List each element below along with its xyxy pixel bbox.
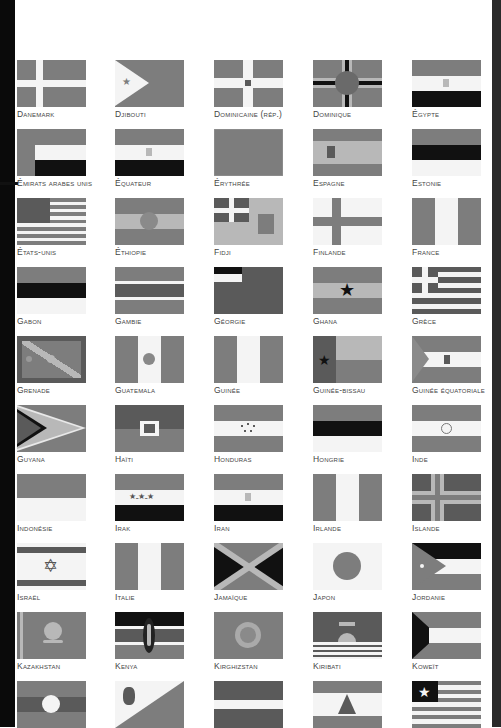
flag-image xyxy=(313,543,382,590)
flag-country-label: France xyxy=(412,248,501,257)
flag-image xyxy=(115,405,184,452)
flag-card: Grèce xyxy=(412,267,501,326)
flag-card: Finlande xyxy=(313,198,403,257)
flag-country-label: Grèce xyxy=(412,317,501,326)
flag-country-label: Érythrée xyxy=(214,179,304,188)
flag-shape xyxy=(214,474,283,490)
flag-shape xyxy=(260,336,283,383)
flag-card: dominicaine (Rép.) xyxy=(214,60,304,119)
flag-shape xyxy=(17,712,86,728)
flag-shape xyxy=(138,543,161,590)
flag-image: ★ xyxy=(313,336,382,383)
flag-shape xyxy=(115,160,184,176)
flag-card: Grenade xyxy=(17,336,107,395)
flag-image xyxy=(412,198,481,245)
flag-image: ★ xyxy=(313,267,382,314)
flag-shape xyxy=(313,436,382,452)
flag-shape xyxy=(412,198,435,245)
flag-country-label: Islande xyxy=(412,524,501,533)
flag-country-label: Japon xyxy=(313,593,403,602)
flag-shape xyxy=(17,80,86,87)
flag-image xyxy=(115,543,184,590)
flag-image xyxy=(17,612,86,659)
flag-card: Honduras xyxy=(214,405,304,464)
flag-shape xyxy=(412,495,481,500)
flag-shape xyxy=(412,91,481,107)
flag-image xyxy=(17,267,86,314)
flag-country-label: Jamaïque xyxy=(214,593,304,602)
flag-image: ★ xyxy=(412,681,481,728)
flag-country-label: Éthiopie xyxy=(115,248,205,257)
flag-image xyxy=(214,543,283,590)
flag-image xyxy=(313,474,382,521)
flag-country-label: Guinée équatoriale xyxy=(412,386,501,395)
flag-image xyxy=(412,267,481,314)
flag-image xyxy=(412,60,481,107)
flag-image xyxy=(17,405,86,452)
flag-shape xyxy=(214,336,237,383)
flag-image xyxy=(17,198,86,245)
flag-country-label: Estonie xyxy=(412,179,501,188)
flag-country-label: Israël xyxy=(17,593,107,602)
flag-country-label: Danemark xyxy=(17,110,107,119)
flag-shape xyxy=(412,724,481,728)
flag-shape xyxy=(17,498,86,521)
flag-shape xyxy=(147,624,151,646)
flag-card: Jordanie xyxy=(412,543,501,602)
flag-shape xyxy=(17,547,86,553)
flag-shape xyxy=(161,336,184,383)
flag-card: Japon xyxy=(313,543,403,602)
flag-card xyxy=(17,681,107,728)
flag-shape xyxy=(250,430,252,432)
flag-country-label: Finlande xyxy=(313,248,403,257)
flag-country-label: Indonésie xyxy=(17,524,107,533)
flag-shape xyxy=(43,640,63,643)
flag-shape xyxy=(47,355,55,363)
flag-shape xyxy=(313,405,382,421)
flag-shape: ✡ xyxy=(43,556,58,576)
flag-country-label: Géorgie xyxy=(214,317,304,326)
flag-shape xyxy=(313,655,382,657)
flag-image xyxy=(214,129,283,176)
flag-shape xyxy=(336,336,382,360)
flag-card: Géorgie xyxy=(214,267,304,326)
flag-country-label: Jordanie xyxy=(412,593,501,602)
flag-card xyxy=(313,681,403,728)
flag-image xyxy=(214,336,283,383)
flag-image xyxy=(214,681,283,728)
flag-country-label: Kenya xyxy=(115,662,205,671)
flag-country-label: Kiribati xyxy=(313,662,403,671)
flag-shape xyxy=(17,267,86,283)
flag-country-label: Haïti xyxy=(115,455,205,464)
flag-shape xyxy=(336,474,359,521)
flag-image: ✡ xyxy=(17,543,86,590)
flag-shape xyxy=(17,241,86,245)
flag-image xyxy=(115,198,184,245)
flag-image xyxy=(214,474,283,521)
flag-shape xyxy=(313,421,382,436)
flag-shape: ★ xyxy=(339,281,355,299)
flag-country-label: Gambie xyxy=(115,317,205,326)
flag-country-label: Guatemala xyxy=(115,386,205,395)
flag-image xyxy=(313,681,382,728)
flag-shape xyxy=(214,208,249,213)
flag-shape xyxy=(44,622,62,640)
flag-country-label: Djibouti xyxy=(115,110,205,119)
flag-card: Italie xyxy=(115,543,205,602)
flag-shape xyxy=(115,60,149,106)
flag-shape xyxy=(123,687,135,705)
flag-image xyxy=(115,267,184,314)
flag-country-label: Irlande xyxy=(313,524,403,533)
flag-image xyxy=(412,612,481,659)
flag-shape xyxy=(115,336,138,383)
flag-country-label: Irak xyxy=(115,524,205,533)
flag-shape: ★ـ★ـ★ xyxy=(129,492,154,501)
flag-image xyxy=(214,267,283,314)
flag-card: Irlande xyxy=(313,474,403,533)
flag-card: Dominique xyxy=(313,60,403,119)
flag-shape xyxy=(115,474,184,490)
flag-shape xyxy=(313,681,382,693)
flag-shape xyxy=(17,412,41,444)
flag-shape xyxy=(339,622,355,626)
flag-shape: ★ xyxy=(318,353,331,367)
